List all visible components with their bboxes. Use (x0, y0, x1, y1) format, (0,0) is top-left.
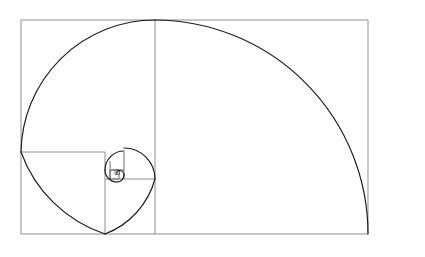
fibonacci-spiral-svg: Fibonacci Spiral (Golden Ratio Rectangle… (0, 0, 425, 257)
fibonacci-diagram-root: Fibonacci Spiral (Golden Ratio Rectangle… (0, 0, 425, 257)
canvas-background (0, 0, 425, 257)
